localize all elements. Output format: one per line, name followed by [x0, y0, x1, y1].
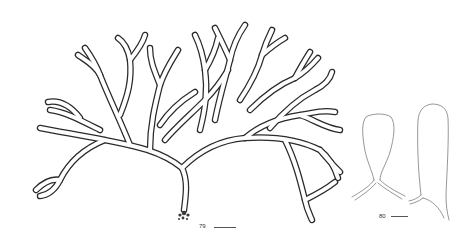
figure-79-scale-bar	[214, 227, 236, 228]
figure-80-scale-bar	[391, 216, 408, 217]
figure-79-label: 79	[199, 223, 206, 229]
illustration-plate: 79 80	[0, 0, 471, 242]
figure-80-cell-outlines	[0, 0, 471, 242]
figure-80-label: 80	[379, 213, 386, 219]
